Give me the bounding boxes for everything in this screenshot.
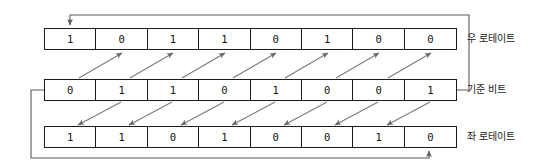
bit-cell: 0 (353, 80, 404, 100)
bit-cell: 1 (45, 127, 96, 147)
row-label-right-rotate: 우 로테이트 (467, 33, 515, 45)
bit-row-right-rotate: 1 0 1 1 0 1 0 0 (44, 28, 457, 50)
bit-cell: 0 (45, 80, 96, 100)
bit-cell: 0 (251, 127, 302, 147)
bit-cell: 0 (251, 29, 302, 49)
right-rotate-shift-arrows (79, 53, 431, 78)
bit-cell: 1 (251, 80, 302, 100)
bit-cell: 0 (302, 127, 353, 147)
bit-cell: 0 (199, 80, 250, 100)
bit-cell: 0 (405, 29, 456, 49)
row-label-left-rotate: 좌 로테이트 (467, 131, 515, 143)
row-label-reference: 기준 비트 (467, 84, 506, 96)
bit-cell: 1 (96, 127, 147, 147)
left-rotate-shift-arrows (78, 102, 430, 125)
bit-cell: 1 (45, 29, 96, 49)
bit-cell: 1 (302, 29, 353, 49)
bit-row-reference: 0 1 1 0 1 0 0 1 (44, 79, 457, 101)
bit-cell: 0 (405, 127, 456, 147)
bit-cell: 0 (96, 29, 147, 49)
bit-cell: 1 (96, 80, 147, 100)
bit-cell: 0 (148, 127, 199, 147)
bit-cell: 1 (148, 80, 199, 100)
bit-cell: 1 (199, 127, 250, 147)
bit-cell: 1 (199, 29, 250, 49)
bit-cell: 0 (302, 80, 353, 100)
rotate-diagram: 1 0 1 1 0 1 0 0 0 1 1 0 1 0 0 1 1 1 0 1 … (0, 0, 546, 166)
bit-cell: 1 (148, 29, 199, 49)
bit-cell: 0 (353, 29, 404, 49)
bit-cell: 1 (405, 80, 456, 100)
bit-cell: 1 (353, 127, 404, 147)
bit-row-left-rotate: 1 1 0 1 0 0 1 0 (44, 126, 457, 148)
